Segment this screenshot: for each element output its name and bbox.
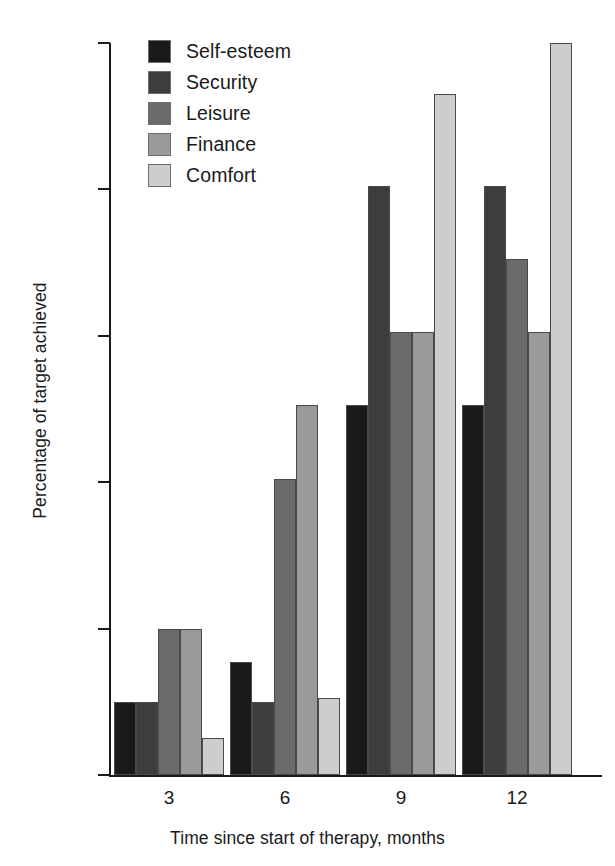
bar-comfort-9 — [434, 94, 456, 775]
bar-leisure-6 — [274, 479, 296, 775]
bar-leisure-12 — [506, 259, 528, 775]
bar-security-9 — [368, 186, 390, 775]
x-tick-label: 6 — [255, 787, 315, 809]
bar-comfort-6 — [318, 698, 340, 775]
bar-chart-figure: Percentage of target achieved 0204060801… — [0, 0, 615, 866]
chart-legend: Self-esteemSecurityLeisureFinanceComfort — [148, 36, 291, 191]
bar-self-esteem-12 — [462, 405, 484, 775]
y-axis-label: Percentage of target achieved — [30, 171, 51, 631]
legend-label: Self-esteem — [186, 40, 291, 63]
bar-security-12 — [484, 186, 506, 775]
legend-label: Security — [186, 71, 257, 94]
legend-item-finance: Finance — [148, 129, 291, 160]
y-tick-mark — [98, 774, 110, 776]
bar-group-9-months — [346, 43, 456, 775]
x-axis-line — [109, 775, 602, 777]
y-tick-mark — [98, 481, 110, 483]
bar-finance-9 — [412, 332, 434, 775]
y-tick: 20 — [0, 628, 110, 630]
x-axis-label: Time since start of therapy, months — [0, 828, 615, 849]
x-tick-label: 9 — [371, 787, 431, 809]
y-tick: 40 — [0, 481, 110, 483]
legend-label: Finance — [186, 133, 256, 156]
x-tick-label: 3 — [139, 787, 199, 809]
legend-item-self-esteem: Self-esteem — [148, 36, 291, 67]
bar-finance-12 — [528, 332, 550, 775]
bar-comfort-3 — [202, 738, 224, 775]
bar-finance-3 — [180, 629, 202, 775]
y-tick-mark — [98, 335, 110, 337]
legend-swatch-icon — [148, 133, 171, 156]
bar-comfort-12 — [550, 43, 572, 775]
y-tick-mark — [98, 42, 110, 44]
y-tick-mark — [98, 628, 110, 630]
bar-leisure-3 — [158, 629, 180, 775]
y-tick: 80 — [0, 188, 110, 190]
y-tick: 100 — [0, 42, 110, 44]
bar-self-esteem-9 — [346, 405, 368, 775]
legend-item-leisure: Leisure — [148, 98, 291, 129]
y-tick-mark — [98, 188, 110, 190]
bar-self-esteem-3 — [114, 702, 136, 775]
bar-security-3 — [136, 702, 158, 775]
bar-self-esteem-6 — [230, 662, 252, 775]
bar-security-6 — [252, 702, 274, 775]
legend-item-comfort: Comfort — [148, 160, 291, 191]
legend-swatch-icon — [148, 102, 171, 125]
legend-swatch-icon — [148, 71, 171, 94]
y-tick: 0 — [0, 774, 110, 776]
legend-swatch-icon — [148, 164, 171, 187]
y-tick: 60 — [0, 335, 110, 337]
bar-leisure-9 — [390, 332, 412, 775]
legend-item-security: Security — [148, 67, 291, 98]
legend-label: Leisure — [186, 102, 251, 125]
bar-finance-6 — [296, 405, 318, 775]
legend-swatch-icon — [148, 40, 171, 63]
bar-group-12-months — [462, 43, 572, 775]
x-tick-label: 12 — [487, 787, 547, 809]
legend-label: Comfort — [186, 164, 256, 187]
